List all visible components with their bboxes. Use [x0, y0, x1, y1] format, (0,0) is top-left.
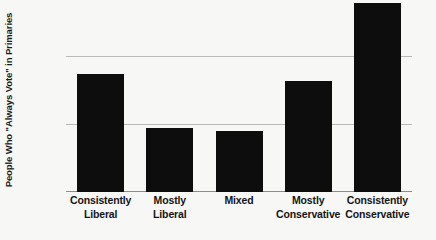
- bar: [216, 131, 263, 192]
- category-label-line: Mixed: [200, 194, 278, 208]
- category-axis-labels: ConsistentlyLiberalMostlyLiberalMixedMos…: [66, 194, 412, 238]
- bar: [77, 74, 124, 192]
- category-label: Mixed: [200, 194, 278, 208]
- category-label-line: Mostly: [131, 194, 209, 208]
- bar: [354, 3, 401, 192]
- bar: [285, 81, 332, 192]
- y-axis-title: People Who "Always Vote" in Primaries: [2, 4, 16, 196]
- category-label: ConsistentlyConservative: [338, 194, 416, 221]
- category-label-line: Conservative: [338, 208, 416, 222]
- category-label: ConsistentlyLiberal: [62, 194, 140, 221]
- category-label-line: Liberal: [131, 208, 209, 222]
- category-label-line: Consistently: [62, 194, 140, 208]
- bar: [146, 128, 193, 192]
- category-label-line: Mostly: [269, 194, 347, 208]
- bars-layer: [66, 0, 412, 192]
- category-label-line: Conservative: [269, 208, 347, 222]
- category-label-line: Consistently: [338, 194, 416, 208]
- bar-chart: People Who "Always Vote" in Primaries 02…: [0, 0, 436, 240]
- category-label-line: Liberal: [62, 208, 140, 222]
- plot-area: 020%40%: [66, 0, 412, 192]
- category-label: MostlyConservative: [269, 194, 347, 221]
- category-label: MostlyLiberal: [131, 194, 209, 221]
